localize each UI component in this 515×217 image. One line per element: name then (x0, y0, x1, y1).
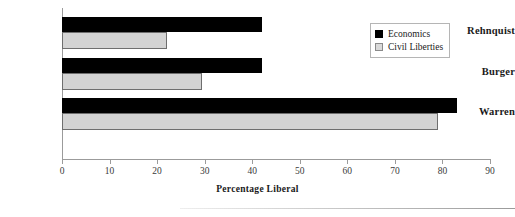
x-tick-mark (252, 159, 253, 164)
x-tick-mark (110, 159, 111, 164)
bar-rehnquist-civil-liberties (62, 32, 167, 49)
bar-rehnquist-economics (62, 17, 262, 32)
x-tick-label: 70 (380, 166, 410, 176)
category-label-rehnquist: Rehnquist (457, 25, 515, 36)
x-tick-mark (347, 159, 348, 164)
x-axis-line (62, 159, 490, 160)
x-tick-label: 10 (95, 166, 125, 176)
legend-item-civil-liberties: Civil Liberties (375, 41, 443, 53)
x-tick-mark (157, 159, 158, 164)
legend-swatch-civil-liberties-icon (375, 43, 383, 51)
x-tick-label: 40 (237, 166, 267, 176)
x-tick-label: 20 (142, 166, 172, 176)
x-tick-label: 80 (427, 166, 457, 176)
bar-chart: Rehnquist Burger Warren 0102030405060708… (0, 0, 515, 217)
x-tick-label: 0 (47, 166, 77, 176)
bar-burger-economics (62, 58, 262, 73)
category-label-warren: Warren (457, 106, 515, 117)
x-tick-mark (205, 159, 206, 164)
x-tick-label: 30 (190, 166, 220, 176)
x-tick-mark (300, 159, 301, 164)
bar-warren-economics (62, 98, 457, 113)
bar-burger-civil-liberties (62, 73, 202, 90)
x-tick-label: 90 (475, 166, 505, 176)
bottom-divider (180, 208, 515, 209)
x-tick-label: 50 (285, 166, 315, 176)
legend-item-economics: Economics (375, 28, 443, 40)
category-label-burger: Burger (457, 66, 515, 77)
legend-label-economics: Economics (388, 29, 430, 39)
x-tick-label: 60 (332, 166, 362, 176)
x-tick-mark (442, 159, 443, 164)
legend: Economics Civil Liberties (370, 23, 450, 58)
legend-label-civil-liberties: Civil Liberties (388, 42, 443, 52)
bar-warren-civil-liberties (62, 113, 438, 130)
x-axis-title: Percentage Liberal (0, 184, 515, 194)
x-tick-mark (395, 159, 396, 164)
x-tick-mark (62, 159, 63, 164)
legend-swatch-economics-icon (375, 30, 383, 38)
x-tick-mark (490, 159, 491, 164)
